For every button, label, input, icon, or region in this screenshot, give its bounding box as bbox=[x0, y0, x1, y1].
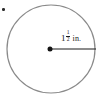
corner-speck-artifact bbox=[2, 8, 5, 11]
radius-measurement-label: 1 1 2 in. bbox=[61, 29, 81, 43]
radius-whole-number: 1 bbox=[61, 34, 66, 44]
fraction-denominator: 2 bbox=[66, 37, 70, 43]
center-point-dot bbox=[48, 47, 53, 52]
radius-fraction: 1 2 bbox=[66, 30, 70, 43]
geometry-diagram-canvas bbox=[0, 0, 102, 97]
circle-radius-figure: 1 1 2 in. bbox=[0, 0, 102, 97]
radius-unit-label: in. bbox=[73, 35, 82, 44]
